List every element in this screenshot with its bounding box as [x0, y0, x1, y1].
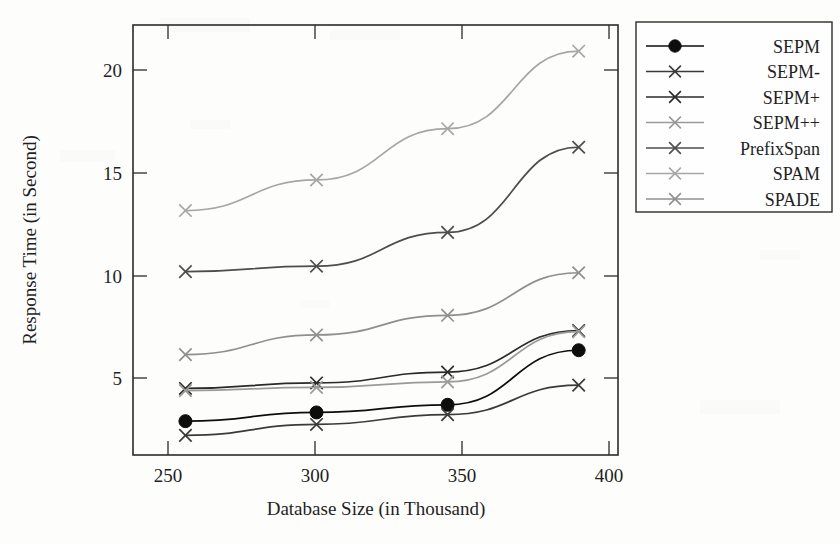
- legend-label: SEPM++: [753, 113, 820, 133]
- x-tick-label-300: 300: [301, 465, 330, 486]
- y-tick-label-20: 20: [103, 60, 122, 81]
- legend-label: SEPM+: [763, 88, 820, 108]
- y-tick-label-15: 15: [103, 163, 122, 184]
- legend-label: SPAM: [773, 164, 820, 184]
- y-tick-label-5: 5: [113, 368, 123, 389]
- marker-circle: [310, 406, 323, 419]
- legend-label: SEPM-: [767, 62, 820, 82]
- marker-circle: [179, 415, 192, 428]
- legend-label: SEPM: [773, 37, 820, 57]
- response-time-line-chart: 20 15 10 5 250 300 350 400 Database Size…: [0, 0, 840, 544]
- legend-label: SPADE: [765, 190, 820, 210]
- legend-label: PrefixSpan: [740, 139, 820, 159]
- x-tick-label-250: 250: [154, 465, 183, 486]
- marker-circle: [572, 344, 585, 357]
- x-axis-label: Database Size (in Thousand): [267, 498, 486, 520]
- figure-container: 20 15 10 5 250 300 350 400 Database Size…: [0, 0, 840, 544]
- y-axis-label: Response Time (in Second): [19, 135, 41, 345]
- chart-legend: SEPMSEPM-SEPM+SEPM++PrefixSpanSPAMSPADE: [636, 22, 832, 212]
- marker-circle: [669, 40, 681, 52]
- y-tick-label-10: 10: [103, 266, 122, 287]
- x-tick-label-400: 400: [595, 465, 624, 486]
- x-tick-label-350: 350: [448, 465, 477, 486]
